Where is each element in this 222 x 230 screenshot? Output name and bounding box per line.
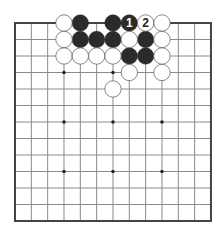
- black-stone: [105, 31, 121, 47]
- white-stone: [154, 31, 170, 47]
- stone-circle: [154, 64, 170, 80]
- star-point: [111, 170, 115, 174]
- stone-circle: [105, 31, 121, 47]
- stone-circle: [121, 48, 137, 64]
- stone-circle: [105, 48, 121, 64]
- white-stone: [154, 64, 170, 80]
- black-stone: [121, 48, 137, 64]
- stone-circle: [154, 31, 170, 47]
- stone-circle: [137, 31, 153, 47]
- stone-circle: [56, 31, 72, 47]
- stone-circle: [56, 48, 72, 64]
- stone-circle: [105, 15, 121, 31]
- white-stone: [56, 31, 72, 47]
- black-stone: [137, 48, 153, 64]
- star-point: [111, 71, 115, 75]
- stone-circle: [88, 31, 104, 47]
- white-stone: 2: [137, 15, 153, 31]
- white-stone: [72, 48, 88, 64]
- star-point: [62, 170, 66, 174]
- black-stone: 1: [121, 15, 137, 31]
- white-stone: [105, 48, 121, 64]
- go-board-diagram: 12: [0, 0, 222, 230]
- stone-circle: [72, 31, 88, 47]
- white-stone: [154, 48, 170, 64]
- star-point: [160, 170, 164, 174]
- black-stone: [72, 31, 88, 47]
- stone-circle: [72, 15, 88, 31]
- star-point: [160, 120, 164, 124]
- white-stone: [88, 48, 104, 64]
- stone-circle: [154, 48, 170, 64]
- stone-circle: [105, 81, 121, 97]
- stone-circle: [121, 31, 137, 47]
- go-board: 12: [0, 0, 222, 230]
- white-stone: [121, 64, 137, 80]
- stones-layer: 12: [56, 15, 170, 97]
- star-point: [62, 120, 66, 124]
- black-stone: [137, 31, 153, 47]
- black-stone: [105, 15, 121, 31]
- stone-circle: [154, 15, 170, 31]
- star-point: [62, 71, 66, 75]
- white-stone: [56, 15, 72, 31]
- stone-circle: [72, 48, 88, 64]
- black-stone: [72, 15, 88, 31]
- stone-circle: [121, 64, 137, 80]
- black-stone: [88, 31, 104, 47]
- move-number-label: 1: [126, 16, 133, 30]
- move-number-label: 2: [142, 16, 149, 30]
- white-stone: [154, 15, 170, 31]
- star-point: [111, 120, 115, 124]
- white-stone: [121, 31, 137, 47]
- white-stone: [56, 48, 72, 64]
- stone-circle: [137, 48, 153, 64]
- stone-circle: [88, 48, 104, 64]
- stone-circle: [56, 15, 72, 31]
- white-stone: [105, 81, 121, 97]
